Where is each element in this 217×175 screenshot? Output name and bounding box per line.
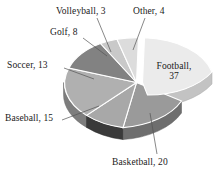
pie-3d-body: [63, 38, 212, 140]
slice-label-football: Football, 37: [148, 61, 200, 82]
slice-label-golf: Golf, 8: [50, 27, 78, 37]
slice-label-soccer: Soccer, 13: [7, 60, 48, 70]
slice-label-football-value: 37: [169, 71, 179, 81]
pie-chart-figure: Volleyball, 3 Other, 4 Golf, 8 Soccer, 1…: [0, 0, 217, 175]
leader-line-other: [133, 18, 145, 50]
slice-label-baseball: Baseball, 15: [5, 113, 53, 123]
slice-label-basketball: Basketball, 20: [112, 157, 168, 167]
slice-label-other: Other, 4: [133, 6, 165, 16]
slice-label-volleyball: Volleyball, 3: [56, 6, 106, 16]
slice-label-football-name: Football,: [157, 61, 192, 71]
pie-chart-canvas: [0, 0, 217, 175]
